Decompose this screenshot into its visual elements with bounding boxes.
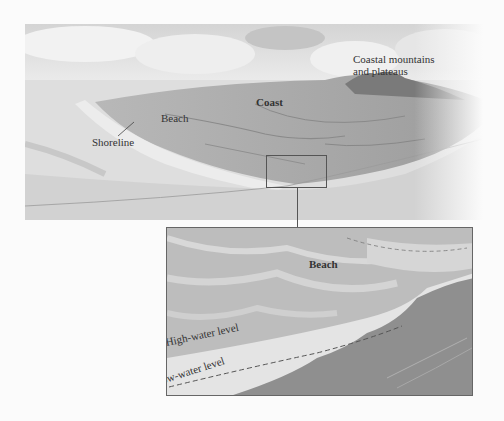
label-coastal-mountains-line2: and plateaus <box>353 65 408 77</box>
label-coastal-mountains: Coastal mountains <box>353 53 435 65</box>
label-coast: Coast <box>256 96 283 108</box>
inset-art <box>167 228 473 396</box>
label-beach-inset: Beach <box>309 258 338 270</box>
label-shoreline: Shoreline <box>92 136 134 148</box>
label-beach-main: Beach <box>161 112 188 124</box>
beach-detail-inset: Beach High-water level Low-water level <box>166 227 473 396</box>
zoom-callout-box <box>266 155 327 188</box>
callout-connector-line <box>297 188 298 227</box>
